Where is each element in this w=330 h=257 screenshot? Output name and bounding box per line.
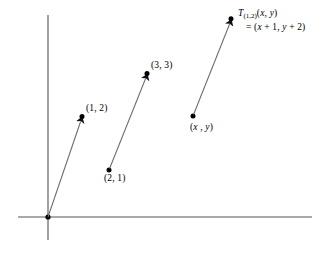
diagram-canvas: [0, 0, 330, 257]
result-paren-close: ): [302, 22, 305, 32]
label-point-x-y: (x , y): [190, 122, 213, 133]
arg-paren-close: ): [274, 8, 277, 18]
label-point-3-3: (3, 3): [151, 60, 172, 71]
point-2-1-dot: [107, 168, 112, 173]
image-point-dot: [229, 16, 234, 21]
label-point-1-2: (1, 2): [86, 103, 107, 114]
formula-line-2: = (x + 1, y + 2): [238, 22, 305, 33]
result-x-offset: + 1,: [262, 22, 283, 32]
translation-vector-diagram: (1, 2) (3, 3) (2, 1) (x , y) T(1,2)(x, y…: [0, 0, 330, 257]
vector-xy-to-image: [194, 24, 230, 115]
label-image-point-formula: T(1,2)(x, y)= (x + 1, y + 2): [238, 8, 305, 33]
paren-close: ): [210, 122, 213, 132]
formula-line-1: T(1,2)(x, y): [238, 8, 277, 18]
label-point-2-1: (2, 1): [104, 173, 125, 184]
point-3-3-dot: [145, 71, 150, 76]
point-1-2-dot: [80, 114, 85, 119]
point-x-y-dot: [191, 114, 196, 119]
result-y-offset: + 2: [287, 22, 302, 32]
equals-sign: =: [246, 22, 252, 32]
vector-origin-to-1-2: [48, 122, 81, 218]
transform-subscript: (1,2): [243, 12, 256, 20]
vector-2-1-to-3-3: [110, 79, 146, 169]
